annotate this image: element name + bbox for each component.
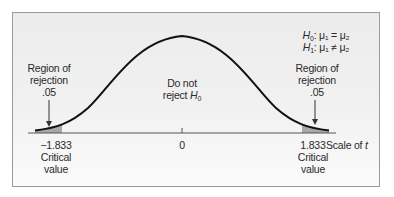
h0-symbol: H <box>303 29 310 41</box>
left-region-value: .05 <box>18 86 80 98</box>
left-region-label: Region of rejection .05 <box>18 62 80 98</box>
center-h-sub: 0 <box>197 95 201 102</box>
zero-value: 0 <box>172 139 192 151</box>
scale-prefix: Scale of <box>326 139 365 151</box>
do-not-reject-label: Do not reject H0 <box>155 77 209 101</box>
left-region-line1: Region of <box>18 62 80 74</box>
right-critical-caption1: Critical <box>285 151 341 163</box>
hypothesis-h0: H0: μ₁ = μ₂ <box>296 29 356 41</box>
scale-var: t <box>365 139 368 151</box>
zero-tick-label: 0 <box>172 139 192 151</box>
left-region-line2: rejection <box>18 74 80 86</box>
right-region-value: .05 <box>286 86 348 98</box>
scale-of-t-label: Scale of t <box>326 139 386 151</box>
right-region-line2: rejection <box>286 74 348 86</box>
right-critical-caption2: value <box>285 163 341 175</box>
h0-text: : μ₁ = μ₂ <box>314 29 350 41</box>
right-arrow-head <box>312 119 318 125</box>
center-line1: Do not <box>155 77 209 89</box>
left-critical-value: −1.833 <box>28 139 84 151</box>
left-arrow-head <box>46 121 52 127</box>
h1-text: : μ₁ ≠ μ₂ <box>314 41 349 53</box>
left-critical-value-label: −1.833 Critical value <box>28 139 84 175</box>
left-critical-caption1: Critical <box>28 151 84 163</box>
hypothesis-h1: H1: μ₁ ≠ μ₂ <box>296 41 356 53</box>
center-line2: reject H0 <box>155 89 209 101</box>
center-line2-prefix: reject <box>163 89 190 101</box>
right-region-label: Region of rejection .05 <box>286 62 348 98</box>
left-critical-caption2: value <box>28 163 84 175</box>
right-region-line1: Region of <box>286 62 348 74</box>
